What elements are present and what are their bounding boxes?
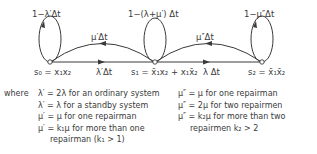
legend-left: λ′ = 2λ for an ordinary system λ′ = λ fo…: [38, 88, 160, 146]
self-loop-label-s2: 1−μ″Δt: [244, 9, 274, 19]
legend-left-row: μ′ = μ for one repairman: [38, 111, 160, 123]
legend-left-row: λ′ = 2λ for an ordinary system: [38, 88, 160, 100]
legend-left-row: repairman (k₁ > 1): [38, 134, 160, 146]
arrow-s1-s2: [203, 60, 210, 65]
transition-label-s2-s1: μ″Δt: [196, 32, 214, 42]
self-loop-label-s0: 1−λ′Δt: [32, 9, 61, 19]
state-label-s0: s₀ = x₁x₂: [34, 67, 71, 77]
legend-right-row: μ″ = k₂μ for more than two: [178, 111, 285, 123]
legend-left-row: λ′ = λ for a standby system: [38, 100, 160, 112]
legend-right-row: μ″ = μ for one repairman: [178, 88, 285, 100]
node-s2: [260, 60, 264, 64]
self-loop-label-s1: 1−(λ+μ′) Δt: [128, 9, 179, 19]
edge-s1-s0: [52, 44, 153, 62]
legend-where: where: [4, 88, 29, 100]
legend-right-row: μ″ = 2μ for two repairmen: [178, 100, 285, 112]
transition-label-s1-s0: μ′Δt: [91, 32, 108, 42]
edge-s2-s1: [157, 44, 260, 62]
legend-right: μ″ = μ for one repairman μ″ = 2μ for two…: [178, 88, 285, 134]
state-label-s1: s₁ = x̄₁x₂ + x₁x̄₂: [131, 67, 198, 77]
self-loop-s1: [144, 18, 166, 62]
legend-right-row: repairmen k₂ > 2: [178, 123, 285, 135]
self-loop-s2: [251, 16, 273, 62]
node-s1: [153, 60, 157, 64]
node-s0: [48, 60, 52, 64]
arrow-s0-s1: [98, 60, 105, 65]
transition-label-s0-s1: λ′Δt: [96, 67, 112, 77]
legend-left-row: μ′ = k₁μ for more than one: [38, 123, 160, 135]
transition-label-s1-s2: λ Δt: [203, 67, 220, 77]
state-label-s2: s₂ = x̄₁x̄₂: [248, 67, 285, 77]
self-loop-s0: [39, 16, 61, 62]
